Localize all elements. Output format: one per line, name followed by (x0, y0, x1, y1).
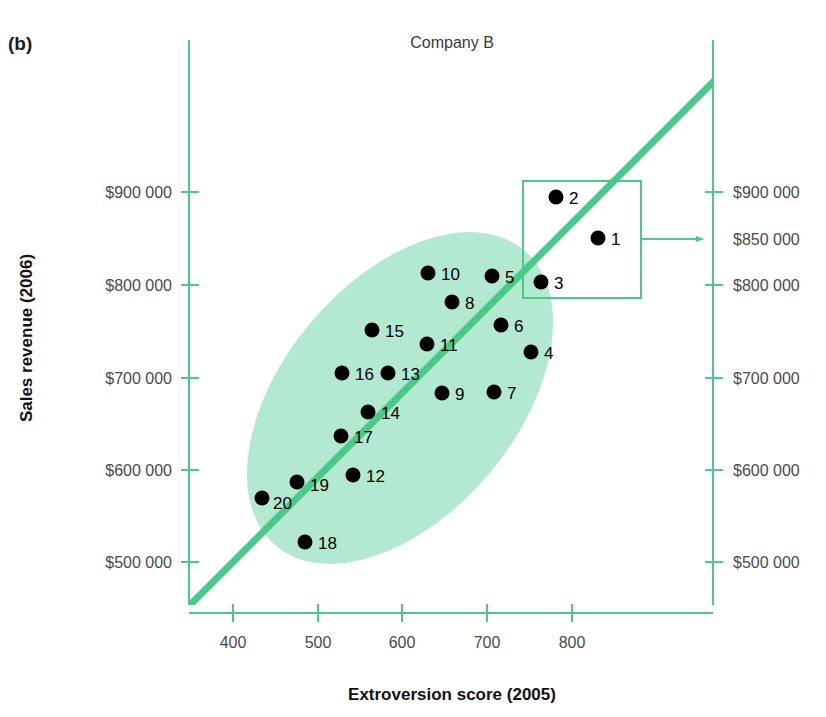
y-tick-left-4: $500 000 (105, 554, 172, 571)
y-axis-right: $900 000 $850 000 $800 000 $700 000 $600… (705, 40, 800, 605)
x-tick-3: 700 (474, 634, 501, 651)
point-label: 11 (440, 336, 458, 355)
point-label: 17 (354, 428, 373, 447)
point-label: 14 (381, 404, 400, 423)
point-label: 5 (505, 268, 514, 287)
y-axis-left: $900 000 $800 000 $700 000 $600 000 $500… (105, 40, 199, 605)
point-marker[interactable] (420, 337, 435, 352)
x-axis: 400 500 600 700 800 (189, 604, 713, 651)
point-label: 4 (544, 344, 553, 363)
point-marker[interactable] (435, 386, 450, 401)
y-tick-left-0: $900 000 (105, 184, 172, 201)
point-label: 8 (465, 294, 474, 313)
point-label: 7 (507, 384, 516, 403)
scatter-plot-figure: (b) Company B $900 000 $800 000 $700 000… (0, 0, 826, 717)
point-marker[interactable] (335, 366, 350, 381)
y-tick-left-2: $700 000 (105, 370, 172, 387)
x-tick-2: 600 (389, 634, 416, 651)
point-marker[interactable] (445, 295, 460, 310)
point-marker[interactable] (290, 475, 305, 490)
point-label: 15 (385, 322, 404, 341)
panel-label: (b) (8, 33, 32, 54)
chart-title: Company B (410, 34, 494, 51)
point-marker[interactable] (255, 491, 270, 506)
point-label: 9 (455, 385, 464, 404)
x-axis-title: Extroversion score (2005) (348, 685, 556, 704)
y-tick-left-3: $600 000 (105, 462, 172, 479)
y-tick-right-4: $600 000 (733, 462, 800, 479)
y-tick-right-2: $800 000 (733, 277, 800, 294)
point-label: 3 (554, 274, 563, 293)
point-marker[interactable] (381, 366, 396, 381)
point-marker[interactable] (549, 190, 564, 205)
point-marker[interactable] (524, 345, 539, 360)
point-marker[interactable] (334, 429, 349, 444)
x-tick-1: 500 (305, 634, 332, 651)
point-label: 2 (569, 189, 578, 208)
point-label: 10 (441, 265, 460, 284)
y-tick-right-3: $700 000 (733, 370, 800, 387)
point-marker[interactable] (365, 323, 380, 338)
point-marker[interactable] (361, 405, 376, 420)
y-tick-right-0: $900 000 (733, 184, 800, 201)
point-label: 1 (611, 230, 620, 249)
y-tick-right-850k: $850 000 (733, 231, 800, 248)
point-marker[interactable] (591, 231, 606, 246)
point-label: 16 (355, 365, 374, 384)
point-marker[interactable] (298, 535, 313, 550)
x-tick-0: 400 (220, 634, 247, 651)
x-tick-4: 800 (559, 634, 586, 651)
point-label: 19 (310, 476, 329, 495)
chart-canvas: (b) Company B $900 000 $800 000 $700 000… (0, 0, 826, 717)
point-label: 6 (514, 317, 523, 336)
point-label: 13 (401, 365, 420, 384)
y-tick-left-1: $800 000 (105, 277, 172, 294)
point-marker[interactable] (487, 385, 502, 400)
point-marker[interactable] (346, 468, 361, 483)
point-label: 20 (273, 494, 292, 513)
point-marker[interactable] (534, 275, 549, 290)
y-axis-title: Sales revenue (2006) (17, 254, 36, 422)
y-tick-right-5: $500 000 (733, 554, 800, 571)
point-label: 12 (366, 467, 385, 486)
point-marker[interactable] (494, 318, 509, 333)
data-point[interactable]: 2 (549, 189, 579, 208)
point-label: 18 (318, 534, 337, 553)
point-marker[interactable] (421, 266, 436, 281)
data-point[interactable]: 1 (591, 230, 621, 249)
point-marker[interactable] (485, 269, 500, 284)
